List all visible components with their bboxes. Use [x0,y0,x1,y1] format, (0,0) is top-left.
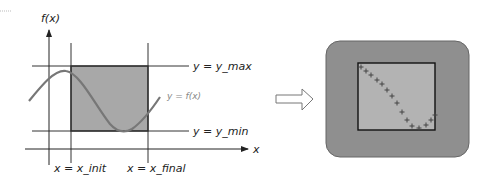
shaded-region [71,66,148,131]
function-plot: f(x) x y = y_max y = y_min x = x_init x … [25,12,260,175]
x-init-label: x = x_init [53,162,107,175]
hollow-right-arrow-icon [276,89,313,110]
y-max-label: y = y_max [192,60,252,73]
x-final-label: x = x_final [126,162,186,175]
y-min-label: y = y_min [192,125,249,138]
inner-plot-box [358,63,435,130]
curve-label: y = f(x) [166,91,201,101]
sampled-output-panel [326,41,469,157]
x-axis-label: x [252,143,260,156]
y-axis-label: f(x) [41,12,60,25]
diagram-canvas: f(x) x y = y_max y = y_min x = x_init x … [0,0,492,178]
